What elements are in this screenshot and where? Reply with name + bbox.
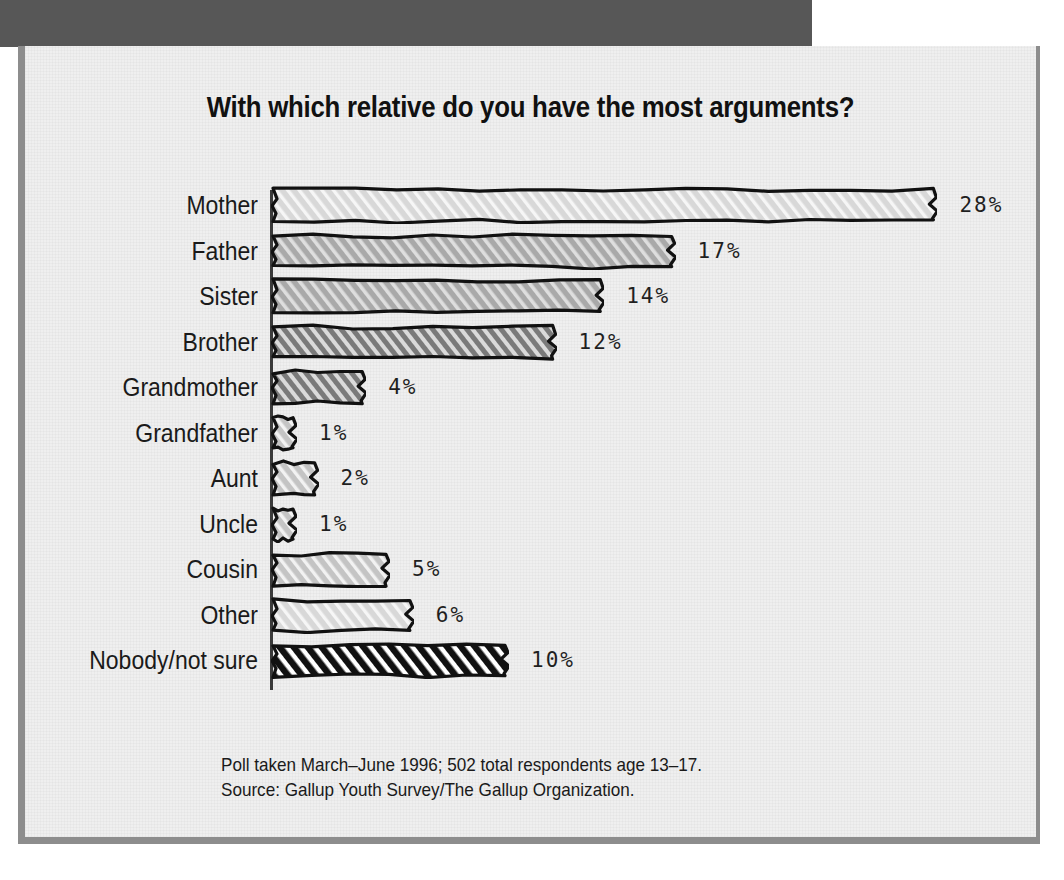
- bar-shape: [271, 323, 557, 361]
- bar: [271, 641, 509, 679]
- bar-shape: [271, 550, 390, 588]
- category-label: Aunt: [44, 464, 258, 493]
- bar-value-label: 1%: [319, 512, 348, 536]
- bar: [271, 596, 414, 634]
- chart-paper: With which relative do you have the most…: [25, 46, 1036, 837]
- bar-row: Grandmother4%: [25, 364, 1035, 410]
- bar-shape: [271, 232, 676, 270]
- category-label: Sister: [44, 282, 258, 311]
- bar-row: Father17%: [25, 228, 1035, 274]
- bar: [271, 414, 297, 452]
- bar-row: Sister14%: [25, 273, 1035, 319]
- bar: [271, 232, 676, 270]
- bar-row: Nobody/not sure10%: [25, 637, 1035, 683]
- bar-shape: [271, 459, 319, 497]
- category-label: Grandmother: [44, 373, 258, 402]
- category-label: Father: [44, 237, 258, 266]
- bar-row: Mother28%: [25, 182, 1035, 228]
- top-decorative-band: [0, 0, 812, 47]
- bar-value-label: 28%: [959, 193, 1003, 217]
- category-label: Cousin: [44, 555, 258, 584]
- category-label: Brother: [44, 328, 258, 357]
- bar-row: Aunt2%: [25, 455, 1035, 501]
- category-label: Uncle: [44, 510, 258, 539]
- bar-value-label: 1%: [319, 421, 348, 445]
- bar: [271, 186, 937, 224]
- bar: [271, 368, 366, 406]
- chart-panel: With which relative do you have the most…: [18, 46, 1040, 844]
- bar-row: Uncle1%: [25, 501, 1035, 547]
- bar-row: Other6%: [25, 592, 1035, 638]
- bar-shape: [271, 186, 937, 224]
- bar-value-label: 14%: [626, 284, 670, 308]
- bar: [271, 550, 390, 588]
- bar-shape: [271, 414, 297, 452]
- bar-value-label: 10%: [531, 648, 575, 672]
- category-label: Nobody/not sure: [44, 646, 258, 675]
- bar-value-label: 5%: [412, 557, 441, 581]
- footnote-line-1: Poll taken March–June 1996; 502 total re…: [221, 752, 702, 777]
- bar-value-label: 12%: [579, 330, 623, 354]
- category-label: Mother: [44, 191, 258, 220]
- category-label: Grandfather: [44, 419, 258, 448]
- bar-value-label: 2%: [341, 466, 370, 490]
- bar: [271, 459, 319, 497]
- bar-row: Brother12%: [25, 319, 1035, 365]
- bar-value-label: 6%: [436, 603, 465, 627]
- category-label: Other: [44, 601, 258, 630]
- bar-shape: [271, 368, 366, 406]
- bar-row: Cousin5%: [25, 546, 1035, 592]
- chart-footnote: Poll taken March–June 1996; 502 total re…: [221, 752, 702, 802]
- chart-screenshot: With which relative do you have the most…: [0, 0, 1064, 880]
- footnote-line-2: Source: Gallup Youth Survey/The Gallup O…: [221, 777, 702, 802]
- bar-row: Grandfather1%: [25, 410, 1035, 456]
- bar-shape: [271, 641, 509, 679]
- bar-value-label: 4%: [388, 375, 417, 399]
- bar-shape: [271, 505, 297, 543]
- plot-area: Mother28%Father17%Sister14%Brother12%Gra…: [25, 182, 1035, 706]
- bar-shape: [271, 277, 604, 315]
- chart-title: With which relative do you have the most…: [96, 90, 965, 124]
- bar-shape: [271, 596, 414, 634]
- bar: [271, 505, 297, 543]
- bar: [271, 277, 604, 315]
- bar-value-label: 17%: [698, 239, 742, 263]
- bar: [271, 323, 557, 361]
